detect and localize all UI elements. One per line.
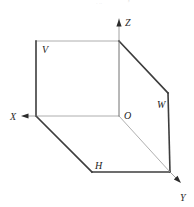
- edge-w-right: [168, 93, 170, 172]
- origin-label: O: [124, 110, 131, 121]
- x-axis-label: X: [9, 111, 17, 122]
- plane-label-w: W: [157, 99, 167, 110]
- plane-label-h: H: [94, 160, 103, 171]
- figure-root: — —— ——— —— ————— , ———— — ——— · ·· ZXYV…: [0, 0, 194, 207]
- edge-w-top-slant: [119, 41, 168, 93]
- edge-y-diagonal: [119, 116, 170, 172]
- plane-label-v: V: [42, 44, 50, 55]
- edge-h-left-slant: [36, 116, 92, 172]
- x-axis-arrowhead: [21, 113, 29, 118]
- y-axis-label: Y: [180, 192, 187, 203]
- z-axis-arrowhead: [116, 19, 121, 27]
- z-axis-label: Z: [125, 17, 131, 28]
- diagram-canvas: ZXYVWHO: [0, 0, 194, 207]
